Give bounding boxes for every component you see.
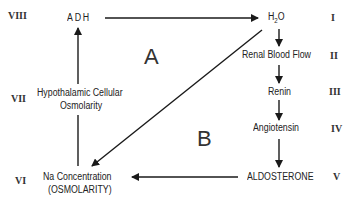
label-iii: III bbox=[329, 86, 341, 98]
h2o-o: O bbox=[278, 11, 285, 22]
node-renin: Renin bbox=[268, 86, 291, 98]
label-vi: VI bbox=[15, 175, 26, 187]
node-na-concentration: Na Concentration bbox=[43, 171, 111, 183]
node-adh: ADH bbox=[67, 12, 91, 24]
node-aldosterone: ALDOSTERONE bbox=[247, 171, 314, 183]
node-hypothalamic-cellular: Hypothalamic Cellular bbox=[37, 87, 123, 99]
label-viii: VIII bbox=[8, 10, 27, 22]
label-i: I bbox=[331, 12, 335, 24]
label-ii: II bbox=[330, 50, 338, 62]
region-b: B bbox=[197, 127, 212, 151]
node-osmolarity: Osmolarity bbox=[60, 100, 102, 112]
node-h2o: H2O bbox=[268, 11, 285, 27]
label-iv: IV bbox=[331, 123, 342, 135]
node-osmolarity-caps: (OSMOLARITY) bbox=[48, 184, 112, 196]
node-renal-blood-flow: Renal Blood Flow bbox=[242, 49, 311, 61]
label-vii: VII bbox=[11, 93, 26, 105]
label-v: V bbox=[333, 171, 340, 183]
node-angiotensin: Angiotensin bbox=[253, 122, 299, 134]
region-a: A bbox=[144, 45, 159, 69]
